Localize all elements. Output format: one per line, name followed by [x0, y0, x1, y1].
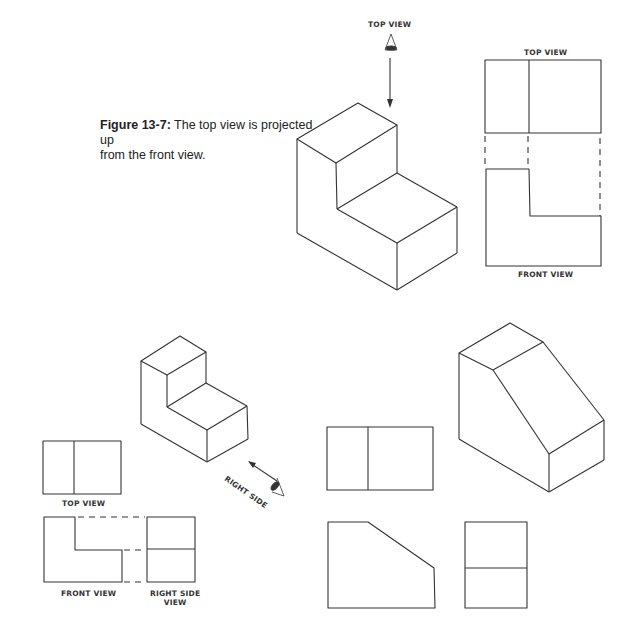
label-top-view-upper: TOP VIEW: [524, 48, 567, 57]
label-front-view-upper: FRONT VIEW: [518, 270, 573, 279]
orthographic-front-view-sloped: [328, 522, 435, 608]
isometric-l-block-lower: [141, 336, 248, 462]
label-right-side-line1: RIGHT SIDE: [150, 589, 200, 598]
label-top-view-eye: TOP VIEW: [368, 20, 411, 29]
label-right-side-view-lower: RIGHT SIDE VIEW: [150, 589, 200, 607]
orthographic-top-view-upper: [485, 60, 601, 133]
isometric-sloped-block: [459, 323, 604, 492]
label-front-view-lower: FRONT VIEW: [61, 589, 116, 598]
caption-text-2: from the front view.: [100, 148, 206, 162]
drawing-canvas: [0, 0, 629, 631]
figure-caption: Figure 13-7: The top view is projected u…: [100, 118, 320, 163]
projection-lines-upper: [485, 136, 600, 216]
orthographic-top-view-lower: [43, 441, 121, 494]
isometric-l-block-top: [297, 103, 457, 290]
orthographic-top-view-sloped: [327, 427, 433, 490]
figure-number: Figure 13-7:: [100, 118, 171, 132]
label-top-view-lower: TOP VIEW: [62, 499, 105, 508]
label-right-side-line2: VIEW: [150, 598, 200, 607]
orthographic-right-side-view-lower: [147, 517, 195, 582]
orthographic-front-view-upper: [486, 169, 601, 266]
eye-icon: [385, 34, 397, 50]
orthographic-side-view-sloped: [465, 522, 527, 608]
orthographic-front-view-lower: [44, 517, 122, 582]
